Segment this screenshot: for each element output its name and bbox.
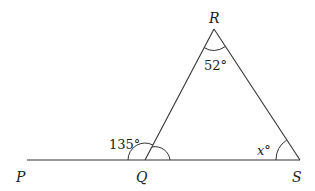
label-point-p: P: [15, 169, 26, 185]
label-angle-r: 52°: [204, 58, 227, 73]
angle-arc-rqs: [152, 147, 170, 160]
angle-arc-r: [204, 47, 225, 51]
angle-arc-s: [276, 140, 287, 160]
label-point-r: R: [208, 10, 220, 26]
label-point-s: S: [292, 169, 302, 185]
label-angle-s: x°: [257, 143, 271, 158]
geometry-diagram: R P Q S 52° 135° x°: [0, 0, 315, 191]
side-qr: [145, 29, 214, 160]
label-angle-pqr: 135°: [109, 137, 140, 152]
side-rs: [214, 29, 300, 160]
label-point-q: Q: [136, 169, 148, 185]
